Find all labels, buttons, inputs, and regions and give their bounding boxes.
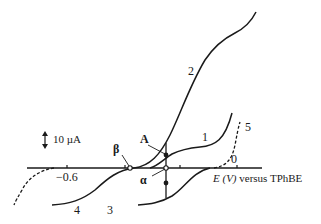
label-alpha: α xyxy=(140,173,147,187)
tick-label-0: 0 xyxy=(231,152,237,166)
point-beta xyxy=(128,166,132,170)
scale-bar-label: 10 µA xyxy=(53,133,81,145)
tick-label-neg0.6: −0.6 xyxy=(56,170,78,184)
filled-point-lower xyxy=(164,181,169,186)
axis-label-variable: E (V) xyxy=(212,172,237,185)
scale-bar-arrow-icon xyxy=(42,131,48,149)
curve-3 xyxy=(138,168,210,205)
leader-alpha xyxy=(152,169,165,176)
label-A: A xyxy=(140,132,149,146)
curve-2 xyxy=(134,12,256,168)
voltammogram-diagram: −0.6 0 E (V) versus TPhBE 10 µA 5 2 1 4 … xyxy=(0,0,321,224)
curve-label-2: 2 xyxy=(188,64,194,78)
curve-1 xyxy=(150,113,232,168)
leader-beta xyxy=(122,155,129,166)
curve-label-1: 1 xyxy=(202,130,208,144)
axis-label: E (V) versus TPhBE xyxy=(212,172,303,185)
curve-label-5: 5 xyxy=(245,120,251,134)
curve-5-cathodic xyxy=(14,168,54,205)
axis-label-reference: versus TPhBE xyxy=(237,172,303,184)
curve-label-3: 3 xyxy=(107,203,113,217)
label-beta: β xyxy=(113,142,119,156)
curve-label-4: 4 xyxy=(74,203,80,217)
